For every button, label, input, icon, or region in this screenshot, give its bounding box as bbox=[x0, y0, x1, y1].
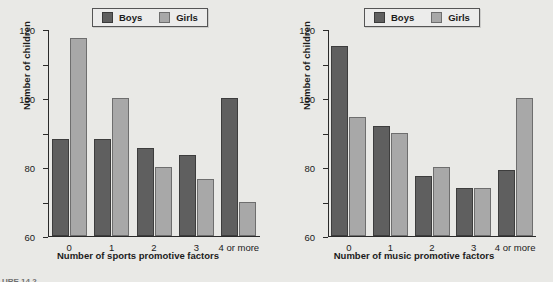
figure-caption: URE 14.2 bbox=[2, 277, 37, 282]
bar-boys-0 bbox=[52, 139, 69, 236]
y-axis-title: Number of children bbox=[301, 0, 312, 136]
chart-panel-sports: Number of children Boys Girls 0204060801… bbox=[0, 0, 276, 282]
legend-label-boys: Boys bbox=[391, 12, 414, 23]
y-axis-tick-label: 80 bbox=[24, 163, 35, 174]
y-axis-tick-label: 60 bbox=[304, 232, 315, 243]
legend-label-girls: Girls bbox=[176, 12, 198, 23]
legend-item-boys: Boys bbox=[102, 12, 142, 23]
bar-girls-4 bbox=[239, 202, 256, 237]
y-axis-tick: 80 bbox=[43, 99, 48, 100]
bar-girls-0 bbox=[349, 117, 366, 236]
y-axis-tick: 60 bbox=[43, 134, 48, 135]
bar-boys-4 bbox=[498, 170, 515, 236]
y-axis-tick-label: 100 bbox=[299, 94, 315, 105]
y-axis-tick-label: 120 bbox=[299, 25, 315, 36]
chart-panel-music: Number of children Boys Girls 0204060801… bbox=[276, 0, 552, 282]
y-axis-title: Number of children bbox=[21, 0, 32, 136]
x-axis-title: Number of sports promotive factors bbox=[0, 250, 276, 261]
bar-girls-2 bbox=[155, 167, 172, 236]
legend-swatch-girls-icon bbox=[431, 12, 442, 23]
y-axis-tick: 120 bbox=[323, 30, 328, 31]
bar-boys-4 bbox=[221, 98, 238, 236]
y-axis-tick: 60 bbox=[323, 134, 328, 135]
bar-boys-1 bbox=[373, 126, 390, 236]
y-axis-tick-label: 60 bbox=[24, 232, 35, 243]
bar-girls-3 bbox=[474, 188, 491, 236]
y-axis-tick: 20 bbox=[323, 203, 328, 204]
bar-girls-3 bbox=[197, 179, 214, 236]
bar-boys-1 bbox=[94, 139, 111, 236]
bar-boys-3 bbox=[456, 188, 473, 236]
legend-label-boys: Boys bbox=[119, 12, 142, 23]
chart-legend: Boys Girls bbox=[364, 8, 480, 27]
legend-swatch-boys-icon bbox=[374, 12, 385, 23]
figure-container: Number of children Boys Girls 0204060801… bbox=[0, 0, 553, 282]
legend-item-boys: Boys bbox=[374, 12, 414, 23]
legend-item-girls: Girls bbox=[431, 12, 470, 23]
plot-area: 02040608010012001234 or more bbox=[48, 30, 260, 237]
bar-girls-2 bbox=[433, 167, 450, 236]
legend-item-girls: Girls bbox=[159, 12, 198, 23]
bar-girls-4 bbox=[516, 98, 533, 236]
legend-swatch-boys-icon bbox=[102, 12, 113, 23]
y-axis-tick-label: 80 bbox=[304, 163, 315, 174]
bar-girls-0 bbox=[70, 38, 87, 236]
bar-girls-1 bbox=[112, 98, 129, 236]
plot-area: 02040608010012001234 or more bbox=[328, 30, 536, 237]
x-axis-line bbox=[328, 236, 536, 237]
y-axis-tick-label: 120 bbox=[19, 25, 35, 36]
bar-boys-2 bbox=[415, 176, 432, 236]
bar-boys-0 bbox=[331, 46, 348, 236]
legend-swatch-girls-icon bbox=[159, 12, 170, 23]
y-axis-tick: 100 bbox=[323, 65, 328, 66]
y-axis-tick: 80 bbox=[323, 99, 328, 100]
x-axis-title: Number of music promotive factors bbox=[276, 250, 552, 261]
bar-boys-3 bbox=[179, 155, 196, 236]
y-axis-tick-label: 100 bbox=[19, 94, 35, 105]
x-axis-line bbox=[48, 236, 260, 237]
y-axis-tick: 120 bbox=[43, 30, 48, 31]
legend-label-girls: Girls bbox=[448, 12, 470, 23]
y-axis-tick: 0 bbox=[323, 237, 328, 238]
y-axis-tick: 0 bbox=[43, 237, 48, 238]
y-axis-tick: 100 bbox=[43, 65, 48, 66]
y-axis-tick: 20 bbox=[43, 203, 48, 204]
y-axis-line bbox=[48, 30, 49, 237]
y-axis-tick: 40 bbox=[43, 168, 48, 169]
bar-boys-2 bbox=[137, 148, 154, 236]
y-axis-line bbox=[328, 30, 329, 237]
y-axis-tick: 40 bbox=[323, 168, 328, 169]
chart-legend: Boys Girls bbox=[92, 8, 208, 27]
bar-girls-1 bbox=[391, 133, 408, 237]
